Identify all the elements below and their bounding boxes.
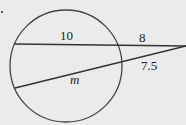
lower-secant xyxy=(15,46,186,88)
secant-diagram: 10 8 7.5 m xyxy=(0,0,186,125)
diagram-canvas: 10 8 7.5 m xyxy=(0,0,186,125)
label-upper-outer: 8 xyxy=(139,30,146,45)
label-lower-inner: m xyxy=(70,72,79,87)
bullet-dot xyxy=(1,11,3,13)
upper-secant xyxy=(14,44,186,46)
label-upper-inner: 10 xyxy=(60,28,73,43)
label-lower-outer: 7.5 xyxy=(141,58,157,73)
